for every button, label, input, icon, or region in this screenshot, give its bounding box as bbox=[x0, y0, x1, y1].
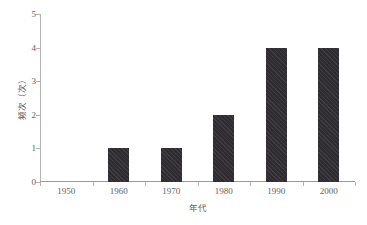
bar-chart: 频次（次） 012345 195019601970198019902000 年代 bbox=[0, 0, 367, 225]
y-axis-tick-label: 2 bbox=[22, 110, 36, 120]
bars-layer bbox=[40, 14, 355, 182]
x-axis-tick-label: 2000 bbox=[320, 186, 338, 196]
y-axis-tick-label: 4 bbox=[22, 43, 36, 53]
x-axis-tick-label: 1950 bbox=[57, 186, 75, 196]
y-axis-tick bbox=[36, 115, 41, 116]
bar bbox=[266, 48, 287, 182]
x-axis-tick-labels: 195019601970198019902000 bbox=[40, 186, 355, 200]
y-axis-tick-label: 5 bbox=[22, 9, 36, 19]
y-axis-tick-labels: 012345 bbox=[22, 14, 36, 182]
x-axis-tick bbox=[355, 182, 356, 186]
plot-area bbox=[40, 14, 355, 182]
bar bbox=[161, 148, 182, 182]
bar bbox=[108, 148, 129, 182]
y-axis-tick bbox=[36, 81, 41, 82]
y-axis-tick-label: 3 bbox=[22, 76, 36, 86]
x-axis-tick-label: 1980 bbox=[215, 186, 233, 196]
bar bbox=[213, 115, 234, 182]
y-axis-tick bbox=[36, 48, 41, 49]
y-axis-tick-label: 0 bbox=[22, 177, 36, 187]
x-axis-tick-label: 1970 bbox=[162, 186, 180, 196]
x-axis-tick-label: 1990 bbox=[267, 186, 285, 196]
y-axis-tick bbox=[36, 148, 41, 149]
y-axis-tick-label: 1 bbox=[22, 143, 36, 153]
bar bbox=[318, 48, 339, 182]
y-axis-tick bbox=[36, 14, 41, 15]
x-axis-tick-label: 1960 bbox=[110, 186, 128, 196]
x-axis-title: 年代 bbox=[40, 201, 355, 213]
